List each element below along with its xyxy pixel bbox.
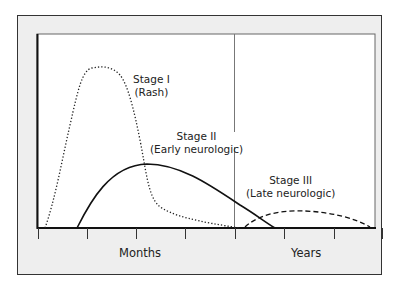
- stage1-annotation: Stage I (Rash): [133, 73, 170, 99]
- stage3-annotation: Stage III (Late neurologic): [246, 174, 335, 200]
- years-axis-label: Years: [291, 246, 321, 260]
- stage2-subtitle: (Early neurologic): [150, 143, 243, 156]
- months-axis-label: Months: [119, 246, 161, 260]
- stage1-title: Stage I: [133, 73, 170, 86]
- x-ticks: [39, 228, 383, 239]
- stage2-annotation: Stage II (Early neurologic): [150, 130, 243, 156]
- stage1-subtitle: (Rash): [133, 86, 170, 99]
- stage3-title: Stage III: [246, 174, 335, 187]
- stage2-title: Stage II: [150, 130, 243, 143]
- stage3-subtitle: (Late neurologic): [246, 187, 335, 200]
